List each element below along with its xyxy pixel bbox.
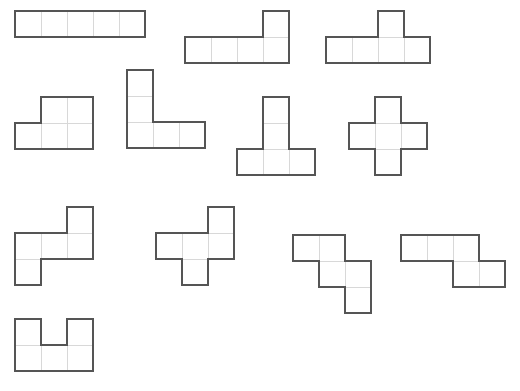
shape-n-pentomino bbox=[400, 234, 504, 286]
shape-cell bbox=[345, 261, 371, 287]
shape-cell bbox=[15, 233, 41, 259]
shape-cell bbox=[319, 261, 345, 287]
shape-cell bbox=[15, 123, 41, 149]
shape-u-pentomino bbox=[14, 318, 92, 370]
shape-cell bbox=[349, 123, 375, 149]
shape-cell bbox=[15, 345, 41, 371]
shape-cell bbox=[41, 345, 67, 371]
shape-cell bbox=[127, 96, 153, 122]
shape-w-pentomino bbox=[292, 234, 370, 312]
shape-cell bbox=[319, 235, 345, 261]
shape-cell bbox=[67, 11, 93, 37]
shape-cell bbox=[289, 149, 315, 175]
shape-cell bbox=[153, 122, 179, 148]
shape-cell bbox=[263, 11, 289, 37]
shape-cell bbox=[15, 259, 41, 285]
shape-cell bbox=[263, 37, 289, 63]
shape-cell bbox=[375, 97, 401, 123]
shape-cell bbox=[41, 11, 67, 37]
shape-cell bbox=[378, 37, 404, 63]
shape-v-pentomino bbox=[126, 69, 204, 147]
shape-cell bbox=[479, 261, 505, 287]
shape-x-pentomino bbox=[348, 96, 426, 174]
shape-cell bbox=[378, 11, 404, 37]
shape-cell bbox=[127, 70, 153, 96]
shape-cell bbox=[427, 235, 453, 261]
shape-cell bbox=[67, 319, 93, 345]
shape-cell bbox=[156, 233, 182, 259]
shape-cell bbox=[453, 235, 479, 261]
shape-cell bbox=[237, 37, 263, 63]
shape-cell bbox=[375, 149, 401, 175]
shape-cell bbox=[345, 287, 371, 313]
shape-s-pentomino bbox=[14, 206, 92, 284]
shape-cell bbox=[293, 235, 319, 261]
shape-cell bbox=[263, 123, 289, 149]
shape-cell bbox=[67, 207, 93, 233]
shape-cell bbox=[67, 97, 93, 123]
shape-cell bbox=[67, 123, 93, 149]
shape-i-pentomino bbox=[14, 10, 144, 36]
shape-cell bbox=[208, 207, 234, 233]
shape-p-pentomino bbox=[14, 96, 92, 148]
shape-y-pentomino bbox=[325, 10, 429, 62]
shape-cell bbox=[401, 235, 427, 261]
pentomino-sheet-canvas bbox=[0, 0, 520, 391]
shape-cell bbox=[263, 149, 289, 175]
shape-cell bbox=[119, 11, 145, 37]
shape-cell bbox=[67, 233, 93, 259]
shape-cell bbox=[263, 97, 289, 123]
shape-l-pentomino bbox=[184, 10, 288, 62]
shape-cell bbox=[67, 345, 93, 371]
shape-cell bbox=[179, 122, 205, 148]
shape-cell bbox=[237, 149, 263, 175]
shape-cell bbox=[375, 123, 401, 149]
shape-cell bbox=[453, 261, 479, 287]
shape-t-pentomino bbox=[236, 96, 314, 174]
shape-cell bbox=[15, 319, 41, 345]
shape-cell bbox=[93, 11, 119, 37]
shape-cell bbox=[41, 233, 67, 259]
shape-cell bbox=[208, 233, 234, 259]
shape-cell bbox=[326, 37, 352, 63]
shape-cell bbox=[182, 259, 208, 285]
shape-cell bbox=[15, 11, 41, 37]
shape-cell bbox=[352, 37, 378, 63]
shape-cell bbox=[41, 123, 67, 149]
shape-cell bbox=[41, 97, 67, 123]
shape-cell bbox=[401, 123, 427, 149]
shape-cell bbox=[211, 37, 237, 63]
shape-cell bbox=[182, 233, 208, 259]
shape-f-pentomino bbox=[155, 206, 233, 284]
shape-cell bbox=[404, 37, 430, 63]
shape-cell bbox=[127, 122, 153, 148]
shape-cell bbox=[185, 37, 211, 63]
